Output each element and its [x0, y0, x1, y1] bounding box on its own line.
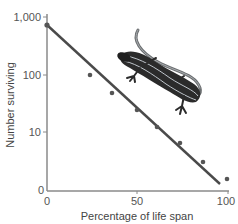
data-points [44, 22, 229, 181]
y-tick-labels: 1,000 100 10 0 [13, 11, 44, 196]
x-axis-title: Percentage of life span [81, 210, 194, 222]
data-point [88, 73, 93, 78]
survivorship-line [47, 25, 220, 184]
x-tick-labels: 0 50 100 [44, 195, 235, 207]
data-point [178, 141, 183, 146]
x-tick-label: 0 [44, 195, 50, 207]
x-tick-label: 100 [217, 195, 235, 207]
y-tick-label: 100 [23, 69, 41, 81]
data-point [201, 160, 206, 165]
y-tick-label: 1,000 [13, 11, 41, 23]
x-tick-label: 50 [131, 195, 143, 207]
survivorship-chart: 1,000 100 10 0 0 50 100 Percentage of li… [0, 0, 238, 224]
data-point [155, 125, 160, 130]
data-point [110, 91, 115, 96]
y-tick-label: 10 [29, 126, 41, 138]
y-axis-title: Number surviving [4, 62, 16, 148]
data-point [44, 22, 49, 27]
data-point [135, 108, 140, 113]
data-point [225, 177, 230, 182]
